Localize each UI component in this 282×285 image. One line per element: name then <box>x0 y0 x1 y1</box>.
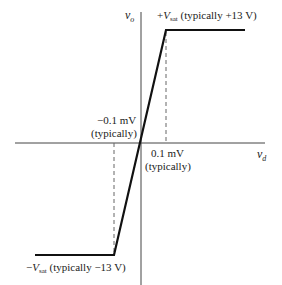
y-axis-label: vo <box>125 8 134 24</box>
pos-threshold-note: (typically) <box>145 160 191 173</box>
pos-threshold-value: 0.1 mV <box>151 147 184 159</box>
x-axis-label: vd <box>257 147 267 163</box>
neg-threshold-note: (typically) <box>91 127 137 140</box>
pos-saturation-label: +Vsat (typically +13 V) <box>157 9 257 23</box>
transfer-characteristic-diagram: vo vd +Vsat (typically +13 V) −Vsat (typ… <box>0 0 282 285</box>
neg-saturation-label: −Vsat (typically −13 V) <box>26 261 126 275</box>
neg-threshold-value: −0.1 mV <box>97 114 136 126</box>
